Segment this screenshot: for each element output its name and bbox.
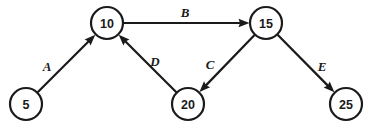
node-15[interactable]: 15 <box>250 7 282 39</box>
node-5[interactable]: 5 <box>10 88 42 120</box>
edge-label-e: E <box>317 59 327 74</box>
edge-b <box>124 19 250 28</box>
node-25[interactable]: 25 <box>330 88 362 120</box>
node-label-25: 25 <box>339 98 353 112</box>
edge-labels-layer: ABCDE <box>42 5 327 74</box>
node-label-15: 15 <box>259 17 273 31</box>
graph-diagram: 510152025 ABCDE <box>0 0 367 126</box>
edges-layer <box>38 19 335 93</box>
node-label-20: 20 <box>181 98 195 112</box>
graph-canvas: 510152025 ABCDE <box>0 0 367 126</box>
node-label-10: 10 <box>100 17 114 31</box>
node-20[interactable]: 20 <box>172 88 204 120</box>
edge-label-b: B <box>180 5 190 20</box>
edge-label-a: A <box>42 59 52 74</box>
edge-label-d: D <box>149 54 160 69</box>
node-label-5: 5 <box>23 98 30 112</box>
arrowhead-b <box>239 19 250 28</box>
edge-d <box>119 35 177 93</box>
edge-label-c: C <box>206 57 215 72</box>
node-10[interactable]: 10 <box>91 7 123 39</box>
